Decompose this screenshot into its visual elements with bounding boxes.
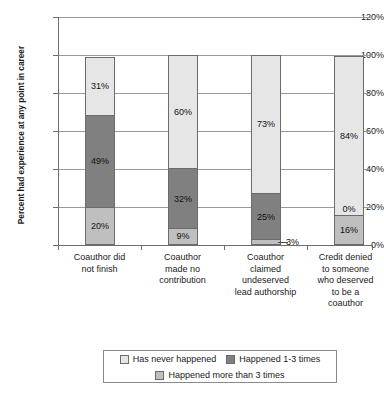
x-tick-mark-2	[224, 245, 225, 250]
x-category-line: made no	[141, 264, 224, 276]
segment-happened-more-than-3[interactable]: 16%	[334, 215, 364, 245]
legend-row-1: Has never happened Happened 1-3 times	[104, 351, 336, 367]
x-category-line: to be a	[307, 287, 384, 299]
y-axis-line	[58, 17, 59, 245]
legend-item-has-never-happened[interactable]: Has never happened	[120, 354, 217, 364]
x-tick-mark-0	[58, 245, 59, 250]
segment-happened-more-than-3[interactable]: 9%	[168, 228, 198, 245]
x-category-line: to someone	[307, 264, 384, 276]
segment-value-label: 73%	[252, 119, 280, 129]
legend-label: Happened more than 3 times	[168, 370, 284, 380]
x-tick-mark-4	[372, 245, 373, 250]
legend-label: Has never happened	[133, 354, 217, 364]
plot-area: 31% 49% 20% 60% 32% 9% 73%	[58, 17, 372, 245]
segment-never-happened[interactable]: 31%	[85, 57, 115, 116]
x-category-label-2: Coauthor made no contribution	[141, 252, 224, 287]
bar-coauthor-claimed-undeserved-lead-authorship[interactable]: 73% 25% 3%	[251, 56, 281, 245]
segment-never-happened[interactable]: 73%	[251, 55, 281, 194]
x-category-line: Coauthor	[141, 252, 224, 264]
segment-value-label: 20%	[86, 221, 114, 231]
legend-label: Happened 1-3 times	[239, 354, 320, 364]
segment-value-label: 0%	[334, 204, 364, 214]
legend-swatch-icon	[155, 371, 164, 380]
gridline-100	[58, 55, 372, 56]
x-category-label-1: Coauthor did not finish	[58, 252, 141, 275]
segment-never-happened[interactable]: 60%	[168, 55, 198, 169]
x-axis-line	[58, 245, 372, 246]
segment-value-label: 16%	[335, 225, 363, 235]
x-category-line: claimed	[224, 264, 307, 276]
x-category-label-3: Coauthor claimed undeserved lead authors…	[224, 252, 307, 298]
segment-value-label: 31%	[86, 81, 114, 91]
legend-item-happened-more-than-3-times[interactable]: Happened more than 3 times	[155, 370, 284, 380]
segment-value-label: 84%	[335, 131, 363, 141]
x-category-line: Coauthor	[224, 252, 307, 264]
legend-swatch-icon	[120, 355, 129, 364]
legend-item-happened-1-3-times[interactable]: Happened 1-3 times	[226, 354, 320, 364]
segment-value-label: 9%	[169, 231, 197, 241]
segment-happened-more-than-3[interactable]: 20%	[85, 207, 115, 245]
x-tick-mark-1	[141, 245, 142, 250]
x-category-label-4: Credit denied to someone who deserved to…	[307, 252, 384, 310]
x-category-line: Credit denied	[307, 252, 384, 264]
y-axis-title: Percent had experience at any point in c…	[16, 10, 26, 260]
legend-row-2: Happened more than 3 times	[104, 367, 336, 383]
segment-value-label: 49%	[86, 156, 114, 166]
segment-happened-1-3[interactable]: 32%	[168, 168, 198, 229]
x-category-line: coauthor	[307, 298, 384, 310]
gridline-120	[58, 17, 372, 18]
bar-coauthor-did-not-finish[interactable]: 31% 49% 20%	[85, 58, 115, 245]
segment-happened-1-3[interactable]: 25%	[251, 193, 281, 241]
x-category-line: lead authorship	[224, 287, 307, 299]
segment-happened-1-3[interactable]: 49%	[85, 115, 115, 208]
bar-credit-denied-to-someone-who-deserved-to-be-a-coauthor[interactable]: 84% 0% 16%	[334, 57, 364, 245]
x-category-line: undeserved	[224, 275, 307, 287]
chart-legend: Has never happened Happened 1-3 times Ha…	[103, 350, 337, 383]
x-tick-mark-3	[307, 245, 308, 250]
segment-value-label: 60%	[169, 107, 197, 117]
x-category-line: Coauthor did	[58, 252, 141, 264]
segment-value-label: 32%	[169, 194, 197, 204]
x-category-line: who deserved	[307, 275, 384, 287]
bar-coauthor-made-no-contribution[interactable]: 60% 32% 9%	[168, 56, 198, 245]
x-category-line: not finish	[58, 264, 141, 276]
legend-swatch-icon	[226, 355, 235, 364]
segment-value-label: 25%	[252, 212, 280, 222]
x-category-line: contribution	[141, 275, 224, 287]
segment-never-happened[interactable]: 84%	[334, 56, 364, 216]
stacked-bar-chart: Percent had experience at any point in c…	[0, 0, 384, 399]
